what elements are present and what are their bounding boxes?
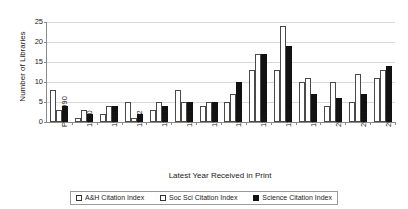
bar-group bbox=[122, 22, 147, 122]
x-tick-label: 1996 bbox=[235, 110, 243, 127]
x-tick-mark bbox=[72, 122, 73, 125]
bar-group bbox=[72, 22, 97, 122]
x-tick-label: 2000 bbox=[335, 110, 343, 127]
x-tick-label: 2002 bbox=[385, 110, 393, 127]
x-tick-label: 1998 bbox=[285, 110, 293, 127]
y-tick-label: 0 bbox=[39, 118, 43, 126]
bar-group bbox=[221, 22, 246, 122]
y-tick-label: 25 bbox=[35, 18, 43, 26]
x-tick-label: 1997 bbox=[260, 110, 268, 127]
bar-group bbox=[196, 22, 221, 122]
x-tick-label: 1992 bbox=[136, 110, 144, 127]
y-tick-label: 5 bbox=[39, 98, 43, 106]
bar-group bbox=[171, 22, 196, 122]
bar-group bbox=[296, 22, 321, 122]
bar-groups bbox=[47, 22, 395, 122]
x-tick-mark bbox=[221, 122, 222, 125]
bar-group bbox=[370, 22, 395, 122]
chart-legend: A&H Citation IndexSoc Sci Citation Index… bbox=[70, 191, 338, 205]
bar-group bbox=[146, 22, 171, 122]
legend-swatch-icon bbox=[160, 195, 166, 201]
y-tick-label: 20 bbox=[35, 38, 43, 46]
x-tick-mark bbox=[97, 122, 98, 125]
x-tick-mark bbox=[171, 122, 172, 125]
legend-label: A&H Citation Index bbox=[85, 194, 144, 202]
x-axis-title: Latest Year Received in Print bbox=[46, 171, 394, 180]
x-tick-label: 1993 bbox=[161, 110, 169, 127]
x-tick-mark bbox=[146, 122, 147, 125]
x-tick-mark bbox=[122, 122, 123, 125]
y-tick-label: 15 bbox=[35, 58, 43, 66]
legend-swatch-icon bbox=[76, 195, 82, 201]
bar-group bbox=[271, 22, 296, 122]
x-tick-label: 1991 bbox=[111, 110, 119, 127]
y-tick-mark bbox=[44, 122, 47, 123]
x-tick-label: 2001 bbox=[360, 110, 368, 127]
x-tick-mark bbox=[246, 122, 247, 125]
legend-label: Science Citation Index bbox=[262, 194, 332, 202]
legend-label: Soc Sci Citation Index bbox=[169, 194, 237, 202]
x-tick-mark bbox=[395, 122, 396, 125]
chart-figure: Number of Libraries 0510152025 Pre-19901… bbox=[0, 0, 408, 209]
legend-item[interactable]: A&H Citation Index bbox=[76, 194, 144, 202]
x-tick-label: 1994 bbox=[186, 110, 194, 127]
x-tick-mark bbox=[296, 122, 297, 125]
plot-area: 0510152025 bbox=[46, 22, 395, 123]
bar-group bbox=[246, 22, 271, 122]
bar-group bbox=[320, 22, 345, 122]
x-tick-mark bbox=[345, 122, 346, 125]
x-tick-mark bbox=[196, 122, 197, 125]
legend-swatch-icon bbox=[253, 195, 259, 201]
x-tick-mark bbox=[370, 122, 371, 125]
legend-item[interactable]: Science Citation Index bbox=[253, 194, 332, 202]
y-tick-label: 10 bbox=[35, 78, 43, 86]
x-tick-label: 1995 bbox=[211, 110, 219, 127]
x-tick-mark bbox=[271, 122, 272, 125]
legend-item[interactable]: Soc Sci Citation Index bbox=[160, 194, 237, 202]
y-axis-title: Number of Libraries bbox=[18, 12, 27, 122]
x-tick-label: Pre-1990 bbox=[61, 96, 69, 127]
x-tick-mark bbox=[320, 122, 321, 125]
bar-group bbox=[345, 22, 370, 122]
x-tick-label: 1990 bbox=[86, 110, 94, 127]
bar-group bbox=[97, 22, 122, 122]
x-tick-label: 1999 bbox=[310, 110, 318, 127]
